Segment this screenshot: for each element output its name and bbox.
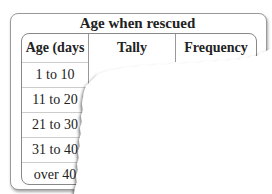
column-header-frequency: Frequency bbox=[176, 34, 256, 62]
column-header-age: Age (days bbox=[22, 34, 88, 62]
table-row: 31 to 40 bbox=[22, 137, 88, 162]
table-row: over 40 bbox=[22, 162, 88, 187]
age-table: Age (days Tally Frequency 1 to 10 11 to … bbox=[21, 33, 257, 185]
table-row: 11 to 20 bbox=[22, 87, 88, 112]
table-caption: Age when rescued bbox=[10, 15, 265, 32]
column-divider bbox=[175, 34, 176, 62]
table-row: 21 to 30 bbox=[22, 112, 88, 137]
table-row: 1 to 10 bbox=[22, 62, 88, 87]
column-header-tally: Tally bbox=[89, 34, 175, 62]
column-divider bbox=[88, 34, 89, 184]
